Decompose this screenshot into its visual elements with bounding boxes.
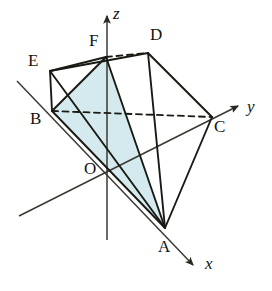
vertex-label-A: A xyxy=(158,238,170,255)
geometry-figure: O A B C D E F x y z xyxy=(0,0,272,291)
axis-label-z: z xyxy=(113,5,120,22)
vertex-label-O: O xyxy=(84,160,96,177)
geometry-figure-svg xyxy=(0,0,272,291)
edge-D-C xyxy=(148,53,212,117)
vertex-label-F: F xyxy=(89,32,98,49)
shaded-quadrilateral-BFA xyxy=(52,57,165,228)
edge-E-B xyxy=(50,71,52,111)
edge-C-A xyxy=(165,117,212,228)
vertex-label-D: D xyxy=(150,26,162,43)
axis-label-x: x xyxy=(205,255,213,272)
axis-label-y: y xyxy=(247,98,255,115)
vertex-label-E: E xyxy=(28,52,38,69)
vertex-label-B: B xyxy=(30,110,41,127)
shaded-region-group xyxy=(52,57,165,228)
vertex-label-C: C xyxy=(214,118,225,135)
